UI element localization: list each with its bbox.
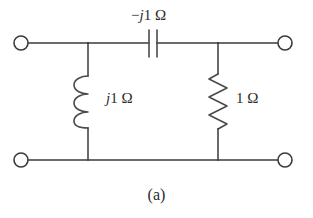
resistor-unit: Ω bbox=[247, 90, 258, 106]
terminal-output-bottom bbox=[278, 153, 292, 167]
terminal-output-top bbox=[278, 36, 292, 50]
inductor-magnitude: 1 bbox=[110, 90, 118, 106]
circuit-figure: −j1 Ω j1 Ω 1 Ω (a) bbox=[0, 0, 313, 218]
resistor-label: 1 Ω bbox=[236, 91, 258, 106]
inductor-label: j1 Ω bbox=[106, 91, 133, 106]
terminal-input-bottom bbox=[14, 153, 28, 167]
terminal-input-top bbox=[14, 36, 28, 50]
figure-caption: (a) bbox=[0, 186, 313, 204]
inductor-coil-symbol bbox=[74, 76, 88, 128]
capacitor-unit: Ω bbox=[155, 7, 166, 23]
resistor-magnitude: 1 bbox=[236, 90, 244, 106]
inductor-unit: Ω bbox=[121, 90, 132, 106]
resistor-zigzag-symbol bbox=[209, 74, 227, 129]
capacitor-label: −j1 Ω bbox=[131, 8, 166, 23]
capacitor-magnitude: 1 bbox=[144, 7, 152, 23]
